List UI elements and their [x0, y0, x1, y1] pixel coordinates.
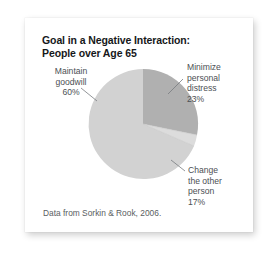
page-caption-fragment	[2, 249, 278, 256]
pie-label-maintain-goodwill-line-2: goodwill	[40, 77, 102, 88]
pie-label-change-other-person-line-1: Change	[188, 165, 222, 176]
pie-label-minimize-distress-line-1: Minimize	[187, 62, 221, 73]
pie-label-minimize-distress-line-3: distress	[187, 83, 221, 94]
pie-label-maintain-goodwill-line-1: Maintain	[40, 66, 102, 77]
chart-source-note: Data from Sorkin & Rook, 2006.	[43, 208, 161, 218]
pie-label-minimize-distress-value: 23%	[187, 94, 221, 105]
pie-label-change-other-person-line-3: person	[188, 186, 222, 197]
pie-label-maintain-goodwill: Maintain goodwill 60%	[40, 66, 102, 98]
pie-label-change-other-person-value: 17%	[188, 197, 222, 208]
pie-label-minimize-distress: Minimize personal distress 23%	[187, 62, 221, 104]
pie-label-maintain-goodwill-value: 60%	[40, 87, 102, 98]
pie-chart: Maintain goodwill 60% Minimize personal …	[25, 18, 253, 232]
pie-label-change-other-person: Change the other person 17%	[188, 165, 222, 207]
figure-card: Goal in a Negative Interaction: People o…	[25, 18, 253, 232]
pie-label-change-other-person-line-2: the other	[188, 176, 222, 187]
pie-label-minimize-distress-line-2: personal	[187, 73, 221, 84]
